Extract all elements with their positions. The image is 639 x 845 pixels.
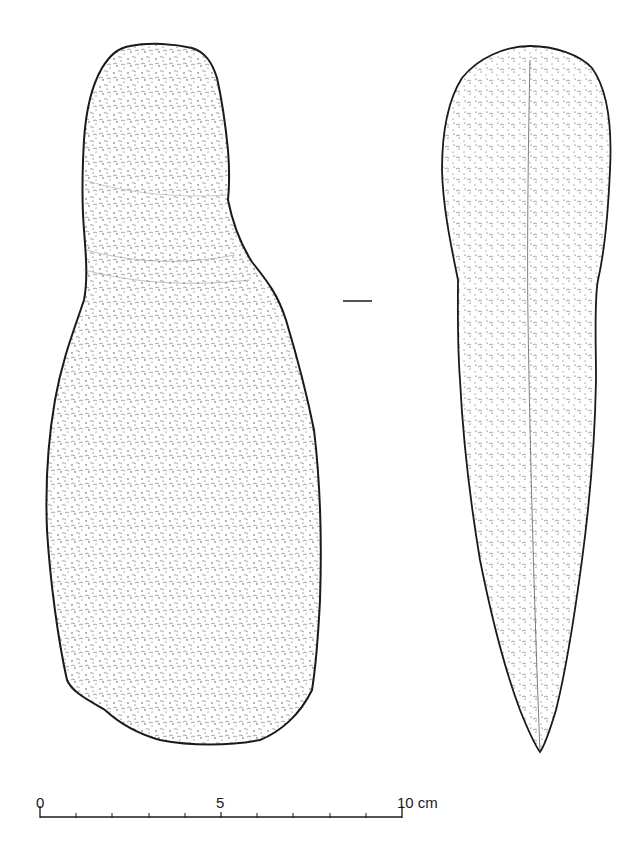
face-view-outline — [46, 44, 320, 745]
scale-label-10cm: 10 cm — [397, 795, 438, 810]
scale-label-0: 0 — [36, 795, 44, 810]
profile-view — [442, 46, 610, 752]
artifact-drawing — [0, 0, 639, 845]
profile-view-outline — [442, 46, 610, 752]
scale-label-5: 5 — [216, 795, 224, 810]
face-view — [46, 44, 320, 745]
